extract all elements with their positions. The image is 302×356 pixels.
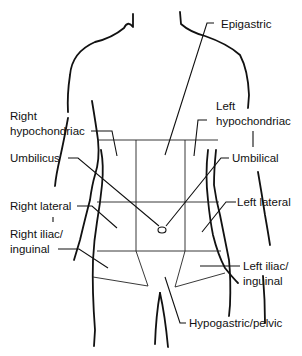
label-left-hypochondriac-line1: Left <box>216 100 236 112</box>
label-epigastric: Epigastric <box>221 18 272 30</box>
label-right-lateral: Right lateral <box>10 200 71 212</box>
label-left-hypochondriac-line2: hypochondriac <box>216 115 291 127</box>
label-right-iliac-line1: Right iliac/ <box>10 228 64 240</box>
label-right-hypochondriac-line1: Right <box>10 110 38 122</box>
abdominal-regions-diagram: Epigastric Right hypochondriac Left hypo… <box>0 0 302 356</box>
label-left-lateral: Left lateral <box>237 196 291 208</box>
region-grid <box>93 140 225 287</box>
label-right-hypochondriac-line2: hypochondriac <box>10 125 85 137</box>
labels: Epigastric Right hypochondriac Left hypo… <box>10 18 291 329</box>
label-umbilicus: Umbilicus <box>10 152 60 164</box>
label-right-iliac-line2: inguinal <box>10 243 50 255</box>
label-umbilical: Umbilical <box>232 152 279 164</box>
umbilicus-mark <box>158 227 166 233</box>
leader-lines <box>53 23 253 323</box>
label-hypogastric: Hypogastric/pelvic <box>189 317 283 329</box>
label-left-iliac-line1: Left iliac/ <box>243 260 289 272</box>
body-outline <box>55 12 270 347</box>
label-left-iliac-line2: inguinal <box>243 275 283 287</box>
